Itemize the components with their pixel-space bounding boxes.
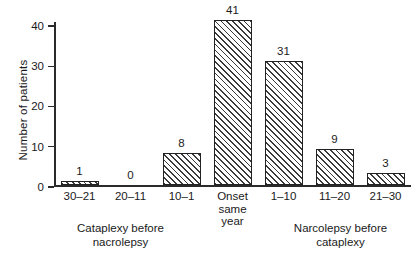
bar-slot: 8 <box>156 22 207 185</box>
bar[interactable] <box>316 149 354 185</box>
bar-value-label: 41 <box>226 4 239 16</box>
bar-value-label: 3 <box>382 157 388 169</box>
bar-slot: 41 <box>207 22 258 185</box>
bar-value-label: 9 <box>331 133 337 145</box>
y-axis-tick-label: 30 <box>31 60 44 72</box>
bar-slot: 1 <box>54 22 105 185</box>
y-axis-tick-label: 40 <box>31 20 44 32</box>
bar-slot: 3 <box>360 22 411 185</box>
x-axis-tick-label: 1–10 <box>258 190 309 203</box>
group-caption-cataplexy-before-narcolepsy: Cataplexy before nacrolepsy <box>38 222 203 249</box>
y-axis-tick-label: 0 <box>38 181 44 193</box>
y-axis-tick-label: 20 <box>31 100 44 112</box>
x-axis-tick-label: 30–21 <box>54 190 105 203</box>
bar[interactable] <box>214 20 252 185</box>
x-axis-line <box>54 185 411 187</box>
y-axis-tick-label: 10 <box>31 141 44 153</box>
bar-value-label: 0 <box>127 169 133 181</box>
x-axis-tick-labels: 30–2120–1110–1Onset same year1–1011–2021… <box>54 190 411 222</box>
bar[interactable] <box>265 61 303 186</box>
bar[interactable] <box>367 173 405 185</box>
bar-chart-figure: Number of patients 010203040 108413193 3… <box>0 0 419 257</box>
bar-value-label: 1 <box>76 165 82 177</box>
y-axis-tick: 0 <box>48 186 54 187</box>
bar-slot: 0 <box>105 22 156 185</box>
group-caption-narcolepsy-before-cataplexy: Narcolepsy before cataplexy <box>258 222 419 249</box>
bar-series: 108413193 <box>54 22 411 185</box>
bar-slot: 9 <box>309 22 360 185</box>
x-axis-tick-label: 11–20 <box>309 190 360 203</box>
plot-area: 010203040 108413193 <box>54 22 411 187</box>
bar-slot: 31 <box>258 22 309 185</box>
bar-value-label: 31 <box>277 45 290 57</box>
x-axis-tick-label: Onset same year <box>207 190 258 228</box>
y-axis-title: Number of patients <box>17 25 29 195</box>
bar[interactable] <box>163 153 201 185</box>
x-axis-tick-label: 21–30 <box>360 190 411 203</box>
x-axis-tick-label: 10–1 <box>156 190 207 203</box>
bar-value-label: 8 <box>178 137 184 149</box>
x-axis-tick-label: 20–11 <box>105 190 156 203</box>
bar[interactable] <box>61 181 99 185</box>
